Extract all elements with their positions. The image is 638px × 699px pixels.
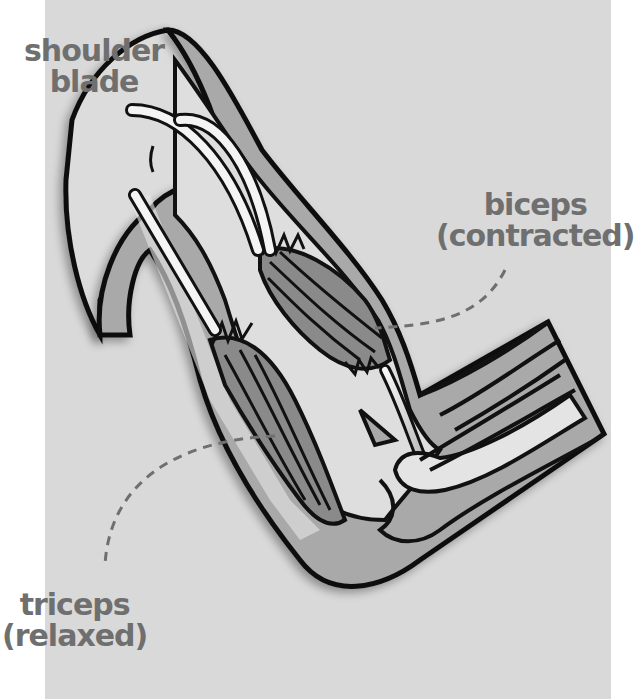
biceps-label: biceps (contracted) xyxy=(436,190,635,251)
triceps-label-line2: (relaxed) xyxy=(2,621,147,652)
shoulder-blade-label-line1: shoulder xyxy=(24,36,164,67)
biceps-label-line1: biceps xyxy=(436,190,635,221)
shoulder-blade-label-line2: blade xyxy=(24,67,164,98)
shoulder-blade-label: shoulder blade xyxy=(24,36,164,97)
triceps-label-line1: triceps xyxy=(2,590,147,621)
biceps-label-line2: (contracted) xyxy=(436,221,635,252)
triceps-label: triceps (relaxed) xyxy=(2,590,147,651)
